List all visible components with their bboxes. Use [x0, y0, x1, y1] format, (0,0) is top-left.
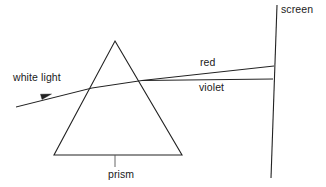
prism-dispersion-diagram: white light red violet prism screen: [0, 0, 326, 187]
label-red-ray: red: [200, 56, 215, 68]
label-white-light: white light: [13, 71, 61, 83]
label-violet-ray: violet: [199, 81, 224, 93]
prism-shape: [54, 41, 182, 155]
label-prism: prism: [108, 168, 134, 180]
diagram-canvas: [0, 0, 326, 187]
screen-line: [271, 5, 277, 178]
label-screen: screen: [281, 3, 313, 15]
ray-inside-prism: [92, 81, 142, 89]
red-ray: [142, 66, 274, 81]
